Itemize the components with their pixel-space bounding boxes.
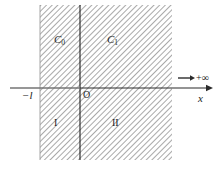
region-label-c0-subscript: 0	[61, 38, 65, 47]
region-1-fill	[40, 88, 80, 160]
region-label-c0: C0	[54, 34, 65, 46]
axis-tick-label-negative-l: −l	[22, 90, 32, 101]
x-axis-label: x	[198, 93, 203, 104]
figure-canvas: C0 C1 −l O I II x +∞	[0, 0, 218, 169]
diagram-svg	[0, 0, 218, 169]
region-c0-fill	[40, 5, 80, 88]
origin-label: O	[83, 90, 90, 100]
region-label-one: I	[54, 118, 57, 128]
region-label-c1-subscript: 1	[114, 38, 118, 47]
plus-infinity-label: +∞	[196, 73, 209, 83]
region-2-fill	[80, 88, 172, 160]
region-c1-fill	[80, 5, 172, 88]
region-label-two: II	[112, 118, 119, 128]
region-label-c1: C1	[107, 34, 118, 46]
